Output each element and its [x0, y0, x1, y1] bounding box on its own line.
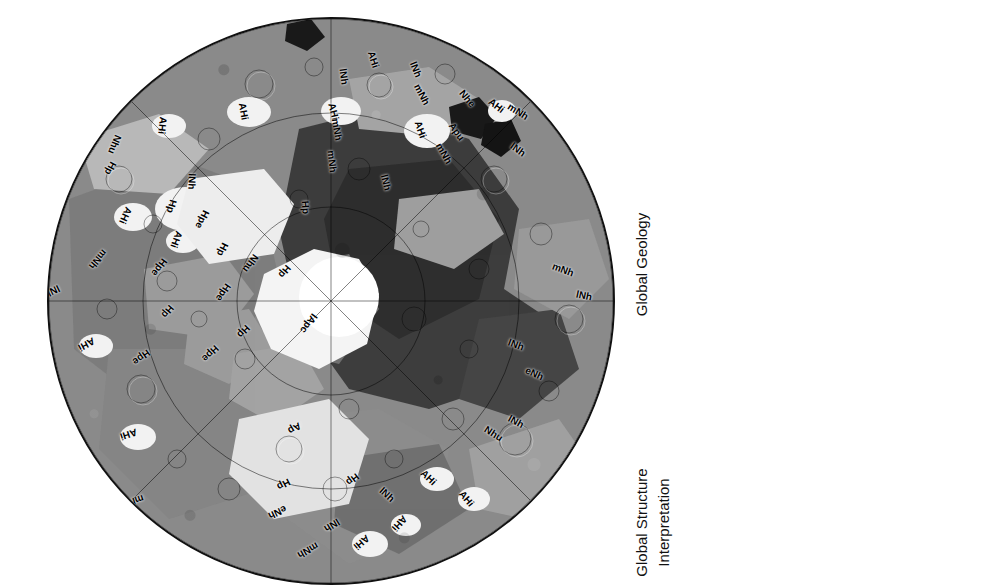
polar-map-disc[interactable]: AHilNhlNhmNhNheAHimNhAHiAHimNhAHiApuAHim… — [47, 17, 615, 585]
map-unit-label: lNh — [186, 173, 198, 189]
map-unit-label: Hp — [300, 200, 312, 214]
map-unit-label: AHi — [156, 116, 169, 134]
map-unit-label: mNh — [325, 150, 338, 173]
map-panel: AHilNhlNhmNhNheAHimNhAHiAHimNhAHiApuAHim… — [0, 0, 630, 573]
legend-panel: Global Geology Polar unitsAplApcHpeHpApu… — [628, 0, 984, 573]
structure-legend-subheader: Interpretation — [650, 0, 676, 573]
map-unit-label: lNh — [337, 68, 350, 85]
